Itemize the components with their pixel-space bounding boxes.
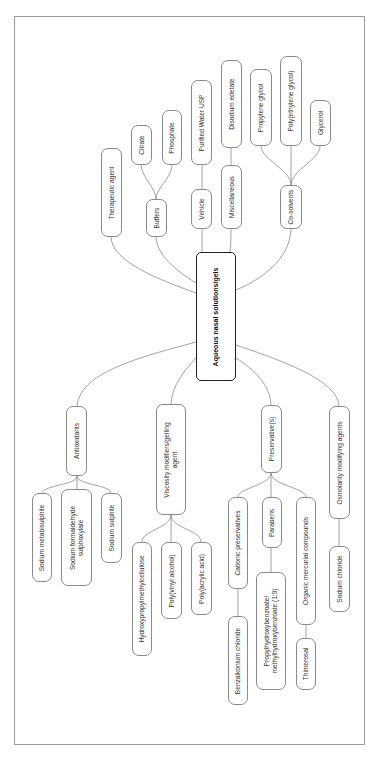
topic-node-viscosity: Viscosity modifiers/gelling agent: [156, 404, 186, 515]
topic-node-hydroxybenzoate: Propylhydroxybenzoate/ methylhydroxybenz…: [256, 572, 286, 690]
topic-node-misc: Miscellaneous: [221, 165, 242, 229]
node-label: Thimerosal: [302, 648, 310, 681]
topic-node-water: Purified Water USP: [191, 80, 212, 165]
topic-node-phosphate: Phosphate: [162, 110, 182, 165]
topic-node-antioxidants: Antioxidants: [66, 406, 87, 476]
topic-node-vehicle: Vehicle: [191, 189, 212, 229]
node-label: Sodium metabisulphite: [38, 504, 46, 571]
topic-node-pva: Poly(vinyl alcohol): [161, 542, 182, 619]
node-label: Sodium formaldehyde sulphoxylate: [68, 505, 85, 569]
connector-line: [142, 515, 171, 542]
connector-line: [230, 229, 231, 252]
topic-node-pg: Propylene glycol: [250, 69, 272, 146]
node-label: Purified Water USP: [197, 94, 205, 151]
topic-node-buffers: Buffers: [146, 199, 167, 237]
connector-line: [261, 146, 291, 185]
node-label: Phosphate: [168, 122, 176, 154]
node-label: Poly(ethylene glycol): [287, 71, 295, 132]
topic-node-osmolarity: Osmolarity modifying agents: [329, 406, 350, 519]
node-label: Benzalkonium chloride: [234, 627, 242, 693]
connector-line: [156, 237, 196, 283]
connector-line: [291, 146, 320, 185]
topic-node-cosolvents: Co-solvents: [280, 185, 302, 229]
node-label: Therapeutic agent: [107, 166, 115, 219]
node-label: Osmolarity modifying agents: [335, 421, 343, 504]
node-label: Preservative(s): [267, 417, 275, 461]
node-label: Miscellaneous: [227, 176, 235, 218]
node-label: Sodium sulphite: [107, 505, 115, 552]
topic-node-formaldehyde: Sodium formaldehyde sulphoxylate: [61, 489, 92, 586]
topic-node-edetate: Disodium edetate: [221, 60, 242, 148]
topic-node-citrate: Citrate: [131, 125, 152, 165]
node-label: Propylhydroxybenzoate/ methylhydroxybenz…: [263, 588, 280, 673]
topic-node-hpmc: Hydroxypropylmethylcellulose: [132, 542, 152, 656]
topic-node-therapeutic: Therapeutic agent: [101, 148, 122, 237]
node-label: Viscosity modifiers/gelling agent: [163, 422, 180, 497]
topic-node-cationic: Cationic preservatives: [228, 497, 248, 589]
node-label: Cationic preservatives: [234, 511, 242, 576]
node-label: Hydroxypropylmethylcellulose: [138, 555, 146, 642]
topic-node-peg: Poly(ethylene glycol): [280, 56, 302, 146]
topic-node-thimerosal: Thimerosal: [296, 638, 316, 690]
node-label: Aqueous nasal solutions/gels: [212, 267, 220, 366]
connector-line: [77, 342, 196, 406]
node-label: Vehicle: [197, 198, 205, 219]
node-label: Propylene glycol: [257, 83, 265, 131]
node-label: Glycerol: [316, 111, 324, 135]
node-label: Sodium chloride: [335, 555, 343, 602]
topic-node-benzalkonium: Benzalkonium chloride: [228, 616, 248, 705]
topic-node-nacl: Sodium chloride: [329, 546, 350, 612]
node-label: Antioxidants: [72, 423, 80, 459]
topic-node-mercurial: Organic mercurial compounds: [296, 497, 316, 625]
topic-node-sulphite: Sodium sulphite: [101, 493, 122, 563]
connector-line: [236, 229, 291, 290]
topic-node-metabisulphite: Sodium metabisulphite: [32, 493, 52, 582]
connector-line: [238, 473, 271, 497]
connector-line: [111, 237, 196, 293]
node-label: Poly(acrylic acid): [197, 554, 205, 604]
connector-line: [171, 515, 201, 542]
topic-node-preservatives: Preservative(s): [261, 405, 282, 473]
node-label: Co-solvents: [287, 190, 295, 225]
connector-line: [141, 165, 156, 199]
topic-node-paa: Poly(acrylic acid): [191, 542, 212, 615]
central-topic-node: Aqueous nasal solutions/gels: [196, 252, 236, 381]
node-label: Poly(vinyl alcohol): [167, 554, 175, 607]
connector-line: [236, 358, 271, 405]
connector-line: [236, 345, 339, 406]
connector-line: [171, 358, 196, 404]
node-label: Buffers: [152, 208, 160, 229]
node-label: Parabens: [268, 508, 276, 536]
connector-line: [156, 165, 172, 199]
node-label: Organic mercurial compounds: [302, 517, 310, 605]
node-label: Citrate: [137, 135, 145, 154]
topic-node-glycerol: Glycerol: [310, 100, 331, 146]
connector-line: [271, 473, 306, 497]
topic-node-parabens: Parabens: [262, 497, 282, 548]
node-label: Disodium edetate: [227, 78, 235, 129]
